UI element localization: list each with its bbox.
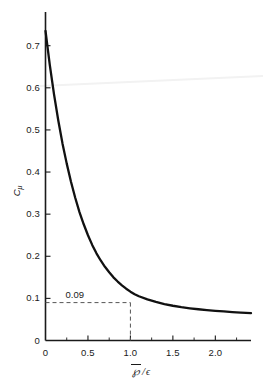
y-tick-label: 0 xyxy=(14,336,40,346)
y-tick-label: 0.3 xyxy=(14,209,40,219)
x-axis-title: ℘/ϵ xyxy=(131,364,150,378)
y-tick-label: 0.1 xyxy=(14,293,40,303)
x-tick-label: 0.5 xyxy=(74,348,102,358)
chart-figure: 00.10.20.30.40.50.60.7 00.51.01.52.0 Cμ … xyxy=(0,0,263,389)
y-axis-title: Cμ xyxy=(6,176,28,206)
x-tick-label: 0 xyxy=(32,348,60,358)
cmu-curve xyxy=(46,31,252,313)
x-tick-label: 2.0 xyxy=(201,348,229,358)
y-tick-label: 0.5 xyxy=(14,125,40,135)
y-axis-title-subscript: μ xyxy=(16,186,23,190)
y-tick-label: 0.7 xyxy=(14,41,40,51)
y-tick-label: 0.6 xyxy=(14,83,40,93)
x-axis-title-denominator: ϵ xyxy=(146,366,150,377)
y-axis-title-text: C xyxy=(11,189,22,196)
x-tick-label: 1.0 xyxy=(116,348,144,358)
annotation-label-009: 0.09 xyxy=(66,289,85,300)
x-axis-title-numerator: ℘ xyxy=(131,364,141,378)
y-tick-label: 0.2 xyxy=(14,251,40,261)
scan-artifact-line xyxy=(40,76,263,86)
plot-area xyxy=(0,0,263,389)
x-tick-label: 1.5 xyxy=(159,348,187,358)
